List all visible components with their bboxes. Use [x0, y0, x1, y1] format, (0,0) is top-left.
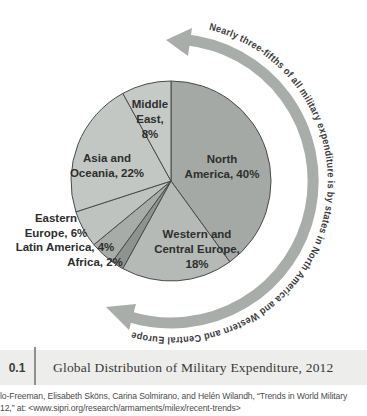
figure-page: Nearly three-fifths of all military expe… — [0, 0, 367, 416]
source-citation: lo-Freeman, Elisabeth Sköns, Carina Solm… — [0, 391, 367, 415]
figure-caption-bar: 0.1 Global Distribution of Military Expe… — [0, 350, 367, 385]
slice-label-africa: Africa, 2% — [67, 256, 123, 268]
figure-title: Global Distribution of Military Expendit… — [53, 360, 334, 376]
slice-label-latin-america: Latin America, 4% — [16, 241, 115, 253]
caption-divider — [34, 347, 36, 385]
figure-number: 0.1 — [0, 361, 34, 375]
arrowhead-top-icon — [166, 28, 192, 56]
arrowhead-bottom-icon — [106, 304, 136, 330]
source-line-1: lo-Freeman, Elisabeth Sköns, Carina Solm… — [0, 391, 367, 403]
source-line-2: 12,” at: <www.sipri.org/research/armamen… — [0, 403, 367, 415]
